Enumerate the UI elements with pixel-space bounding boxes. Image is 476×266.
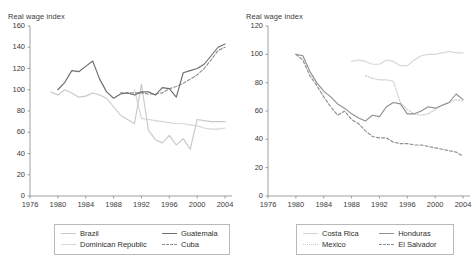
legend-label: Costa Rica (322, 229, 359, 239)
chart-panel-left: Real wage index 160140120100806040200 19… (0, 0, 238, 266)
series-line (121, 47, 225, 94)
legend-item[interactable]: Honduras (379, 229, 447, 239)
legend-item[interactable]: Costa Rica (303, 229, 369, 239)
chart-svg (238, 0, 476, 214)
legend-label: Dominican Republic (80, 240, 147, 250)
plot-area-right (238, 0, 476, 214)
chart-svg (0, 0, 238, 214)
legend-label: Mexico (322, 240, 346, 250)
legend-right: Costa RicaHondurasMexicoEl Salvador (296, 224, 454, 255)
series-line (296, 54, 463, 156)
series-line (51, 84, 225, 149)
plot-area-left (0, 0, 238, 214)
legend-item[interactable]: Guatemala (162, 229, 223, 239)
chart-figure: Real wage index 160140120100806040200 19… (0, 0, 476, 266)
legend-label: Brazil (80, 229, 99, 239)
series-line (58, 44, 225, 98)
legend-item[interactable]: Cuba (162, 240, 223, 250)
series-line (366, 76, 464, 116)
legend-label: Guatemala (181, 229, 218, 239)
legend-label: Honduras (398, 229, 431, 239)
legend-item[interactable]: El Salvador (379, 240, 447, 250)
legend-item[interactable]: Dominican Republic (61, 240, 152, 250)
chart-panel-right: Real wage index 120100806040200 19761980… (238, 0, 476, 266)
series-line (352, 52, 463, 66)
series-line (134, 90, 225, 129)
legend-label: El Salvador (398, 240, 436, 250)
legend-label: Cuba (181, 240, 199, 250)
legend-left: BrazilGuatemalaDominican RepublicCuba (54, 224, 230, 255)
legend-item[interactable]: Mexico (303, 240, 369, 250)
legend-item[interactable]: Brazil (61, 229, 152, 239)
